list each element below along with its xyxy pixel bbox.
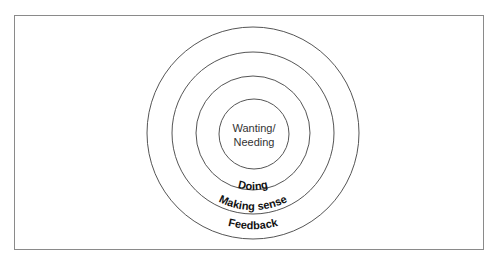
- making-sense-label: Making sense: [217, 192, 288, 212]
- doing-label-path: Doing: [237, 178, 269, 192]
- doing-label: Doing: [237, 178, 269, 192]
- core-label-line-1: Wanting/: [232, 122, 276, 134]
- feedback-label: Feedback: [227, 216, 279, 231]
- making-sense-label-path: Making sense: [217, 192, 288, 212]
- concentric-circles-diagram: Wanting/ Needing Doing Making sense Feed…: [0, 0, 501, 265]
- ring-core: [219, 99, 289, 169]
- core-label-line-2: Needing: [234, 136, 275, 148]
- feedback-label-path: Feedback: [227, 216, 279, 231]
